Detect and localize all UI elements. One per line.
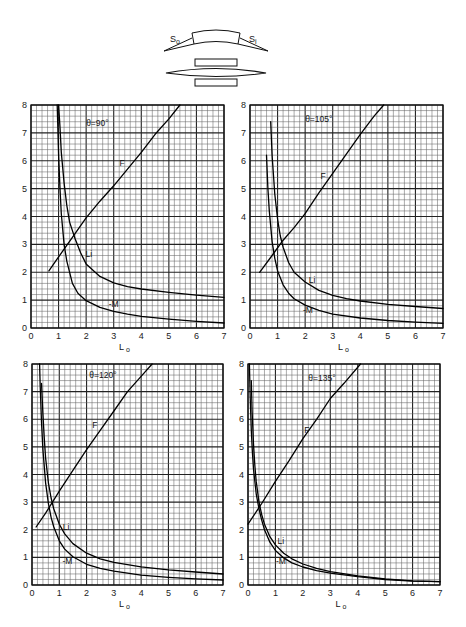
x-tick-label: 2 bbox=[303, 331, 308, 341]
y-tick-label: 2 bbox=[23, 525, 28, 535]
x-tick-label: 3 bbox=[328, 588, 333, 598]
upper-rectangle bbox=[195, 59, 237, 66]
x-tick-label: 3 bbox=[111, 588, 116, 598]
x-tick-label: 5 bbox=[166, 588, 171, 598]
x-axis-label: Lo bbox=[338, 342, 349, 353]
x-tick-label: 4 bbox=[358, 331, 363, 341]
x-axis-label: Lo bbox=[119, 342, 130, 353]
y-tick-label: 7 bbox=[241, 128, 246, 138]
x-tick-label: 4 bbox=[139, 588, 144, 598]
y-tick-label: 1 bbox=[239, 552, 244, 562]
y-tick-label: 4 bbox=[23, 470, 28, 480]
curve-label: F bbox=[119, 158, 124, 168]
y-tick-label: 2 bbox=[241, 267, 246, 277]
x-tick-label: 3 bbox=[330, 331, 335, 341]
figure: So Si 01234567012345678Loθ=90°FLi-M 0123… bbox=[0, 0, 466, 627]
x-tick-label: 5 bbox=[385, 331, 390, 341]
series-line-m bbox=[57, 105, 224, 323]
y-tick-label: 5 bbox=[241, 184, 246, 194]
x-tick-label: 7 bbox=[220, 588, 225, 598]
x-tick-label: 5 bbox=[166, 331, 171, 341]
y-tick-label: 6 bbox=[23, 414, 28, 424]
curve-label: -M bbox=[63, 556, 73, 566]
y-tick-label: 5 bbox=[23, 442, 28, 452]
x-axis-label: Lo bbox=[336, 599, 347, 610]
y-tick-label: 0 bbox=[22, 323, 27, 333]
x-tick-label: 7 bbox=[440, 331, 445, 341]
x-tick-label: 4 bbox=[139, 331, 144, 341]
y-tick-label: 5 bbox=[239, 442, 244, 452]
x-tick-label: 5 bbox=[383, 588, 388, 598]
curve-label: F bbox=[320, 171, 325, 181]
y-tick-label: 6 bbox=[22, 156, 27, 166]
chart-panel-theta-105: 01234567012345678Loθ=105°FLi-M bbox=[241, 100, 446, 353]
x-axis-label: Lo bbox=[119, 599, 130, 610]
x-tick-label: 7 bbox=[437, 588, 442, 598]
x-tick-label: 1 bbox=[56, 331, 61, 341]
y-tick-label: 4 bbox=[239, 470, 244, 480]
y-tick-label: 1 bbox=[241, 295, 246, 305]
curve-label: F bbox=[92, 420, 97, 430]
series-line-m bbox=[249, 364, 440, 582]
y-tick-label: 0 bbox=[241, 323, 246, 333]
grid bbox=[32, 364, 223, 585]
lens-diagram: So Si bbox=[164, 30, 268, 86]
series-line-f bbox=[49, 105, 180, 271]
angle-label: θ=120° bbox=[89, 370, 116, 380]
x-tick-label: 0 bbox=[28, 331, 33, 341]
x-tick-label: 4 bbox=[355, 588, 360, 598]
curve-label: -M bbox=[303, 305, 313, 315]
x-tick-label: 2 bbox=[84, 588, 89, 598]
x-tick-label: 3 bbox=[111, 331, 116, 341]
x-tick-label: 0 bbox=[245, 588, 250, 598]
y-tick-label: 3 bbox=[22, 239, 27, 249]
series-line-f bbox=[248, 364, 361, 524]
x-tick-label: 0 bbox=[29, 588, 34, 598]
x-tick-label: 1 bbox=[275, 331, 280, 341]
angle-label: θ=135° bbox=[308, 373, 335, 383]
x-tick-label: 2 bbox=[300, 588, 305, 598]
x-tick-label: 7 bbox=[221, 331, 226, 341]
y-tick-label: 7 bbox=[22, 128, 27, 138]
lower-rectangle bbox=[195, 79, 237, 86]
y-tick-label: 8 bbox=[22, 100, 27, 110]
y-tick-label: 4 bbox=[22, 212, 27, 222]
x-tick-label: 6 bbox=[194, 331, 199, 341]
chart-panel-theta-135: 01234567012345678Loθ=135°FLi-M bbox=[239, 359, 443, 610]
curve-label: Li bbox=[278, 536, 285, 546]
y-tick-label: 6 bbox=[241, 156, 246, 166]
y-tick-label: 0 bbox=[23, 580, 28, 590]
y-tick-label: 3 bbox=[241, 239, 246, 249]
curve-label: -M bbox=[109, 299, 119, 309]
y-tick-label: 2 bbox=[239, 525, 244, 535]
y-tick-label: 4 bbox=[241, 212, 246, 222]
y-tick-label: 2 bbox=[22, 267, 27, 277]
grid bbox=[250, 105, 443, 328]
series-line-li bbox=[251, 381, 440, 582]
x-tick-label: 1 bbox=[273, 588, 278, 598]
y-tick-label: 8 bbox=[239, 359, 244, 369]
object-surface-label: So bbox=[170, 34, 180, 45]
x-tick-label: 6 bbox=[413, 331, 418, 341]
y-tick-label: 6 bbox=[239, 414, 244, 424]
x-tick-label: 6 bbox=[410, 588, 415, 598]
image-surface-label: Si bbox=[249, 34, 257, 45]
y-tick-label: 7 bbox=[23, 387, 28, 397]
x-tick-label: 2 bbox=[84, 331, 89, 341]
y-tick-label: 5 bbox=[22, 184, 27, 194]
y-tick-label: 3 bbox=[23, 497, 28, 507]
angle-label: θ=90° bbox=[86, 118, 109, 128]
y-tick-label: 8 bbox=[23, 359, 28, 369]
x-tick-label: 0 bbox=[247, 331, 252, 341]
deflecting-element bbox=[192, 30, 240, 44]
curve-label: F bbox=[304, 425, 309, 435]
curve-label: -M bbox=[276, 556, 286, 566]
y-tick-label: 8 bbox=[241, 100, 246, 110]
curve-label: Li bbox=[86, 249, 93, 259]
chart-panel-theta-90: 01234567012345678Loθ=90°FLi-M bbox=[22, 100, 227, 353]
curve-label: Li bbox=[309, 275, 316, 285]
y-tick-label: 7 bbox=[239, 387, 244, 397]
y-tick-label: 1 bbox=[22, 295, 27, 305]
curve-label: Li bbox=[63, 522, 70, 532]
y-tick-label: 0 bbox=[239, 580, 244, 590]
